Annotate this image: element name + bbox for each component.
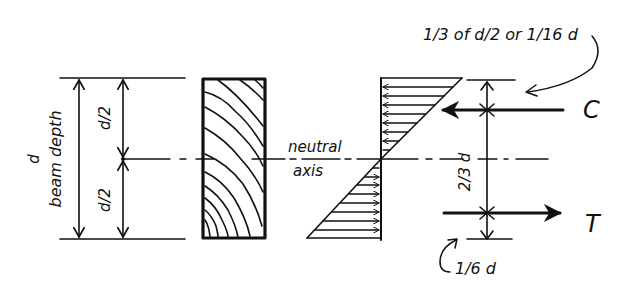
neutral-axis-label-line1: neutral [288, 138, 342, 156]
neutral-axis-label-line2: axis [293, 162, 323, 180]
compression-label: C [583, 96, 600, 124]
beam-depth-label-group: d beam depth [25, 110, 65, 207]
lever-arm-label: 2/3 d [456, 152, 474, 191]
half-depth-top-label: d/2 [96, 106, 114, 130]
half-top-label-group: d/2 [96, 106, 114, 130]
bottom-note-label: 1/6 d [455, 259, 497, 278]
lever-arm-label-group: 2/3 d [456, 152, 474, 191]
tension-label: T [585, 210, 602, 238]
bottom-note-leader-arrow [440, 240, 456, 272]
compression-stress-arrows [383, 87, 453, 150]
compression-stress-edge [381, 78, 462, 159]
tension-stress-arrows [315, 168, 379, 230]
depth-symbol-label: d [25, 154, 43, 164]
half-bottom-label-group: d/2 [96, 188, 114, 212]
half-depth-bottom-label: d/2 [96, 188, 114, 212]
beam-stress-diagram: d beam depth d/2 d/2 neutral axis [0, 0, 626, 304]
beam-depth-label: beam depth [46, 110, 65, 207]
top-note-label: 1/3 of d/2 or 1/16 d [423, 25, 579, 44]
top-note-leader-arrow [528, 36, 598, 92]
